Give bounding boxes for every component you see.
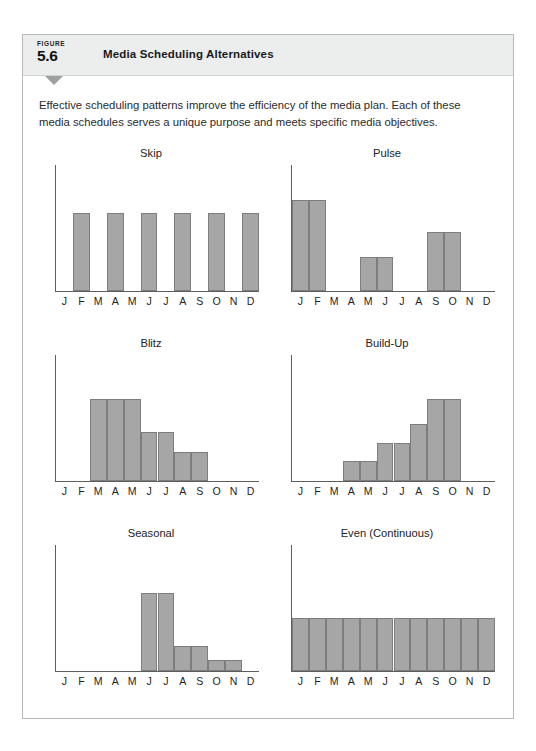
x-axis-tick-label: A [179,675,186,687]
x-axis-tick-label: M [330,675,339,687]
x-axis [55,671,259,672]
x-axis-tick-label: N [466,485,474,497]
x-axis-tick-label: S [196,675,203,687]
x-axis-tick-label: D [483,675,491,687]
bar [158,432,175,481]
x-axis-tick-label: J [298,295,303,307]
bar [377,443,394,481]
bar [377,618,394,671]
x-axis-tick-label: A [348,485,355,497]
x-axis-tick-label: J [163,485,168,497]
x-axis-tick-label: J [62,295,67,307]
chart-grid: SkipJFMAMJJASONDPulseJFMAMJJASONDBlitzJF… [33,147,505,707]
bar [444,399,461,481]
x-axis-tick-label: A [348,295,355,307]
bar [191,646,208,671]
x-axis-tick-label: J [399,675,404,687]
bar [410,618,427,671]
bar [377,257,394,291]
plot-area [55,165,259,291]
x-axis-tick-label: S [432,485,439,497]
x-axis-tick-label: J [146,295,151,307]
bar [427,399,444,481]
bar [292,618,309,671]
x-axis-tick-label: J [62,675,67,687]
x-axis-labels: JFMAMJJASOND [291,295,495,311]
bar [90,399,107,481]
bar [107,399,124,481]
plot-area [291,545,495,671]
chart-even-continuous: Even (Continuous)JFMAMJJASOND [269,527,505,713]
x-axis-tick-label: J [298,675,303,687]
bar-series [292,355,495,481]
x-axis-tick-label: J [399,295,404,307]
bar [410,424,427,481]
bar [292,200,309,291]
x-axis [291,291,495,292]
x-axis-tick-label: J [146,485,151,497]
x-axis-tick-label: S [196,485,203,497]
bar [343,618,360,671]
x-axis-tick-label: J [382,675,387,687]
x-axis-tick-label: D [247,485,255,497]
x-axis-tick-label: N [466,295,474,307]
x-axis-tick-label: D [483,295,491,307]
x-axis-tick-label: A [415,485,422,497]
x-axis-tick-label: F [78,675,84,687]
x-axis-tick-label: J [399,485,404,497]
bar [360,461,377,481]
x-axis-tick-label: N [466,675,474,687]
x-axis-tick-label: F [78,485,84,497]
bar [208,213,225,291]
x-axis [55,481,259,482]
x-axis-tick-label: J [146,675,151,687]
bar [225,660,242,671]
x-axis-tick-label: A [179,295,186,307]
x-axis-tick-label: A [415,675,422,687]
x-axis-tick-label: D [247,675,255,687]
chart-build-up: Build-UpJFMAMJJASOND [269,337,505,523]
chart-pulse: PulseJFMAMJJASOND [269,147,505,333]
x-axis [291,481,495,482]
bar [394,443,411,481]
bar-series [56,165,259,291]
figure-number-block: FIGURE 5.6 [37,39,79,64]
plot-area [291,165,495,291]
x-axis-tick-label: A [112,675,119,687]
figure-header: FIGURE 5.6 Media Scheduling Alternatives [23,35,513,76]
x-axis-tick-label: O [449,295,457,307]
bar-series [292,165,495,291]
bar [141,432,158,481]
x-axis-tick-label: A [415,295,422,307]
x-axis-tick-label: F [78,295,84,307]
x-axis-tick-label: D [247,295,255,307]
bar [158,593,175,671]
x-axis-tick-label: M [364,675,373,687]
bar [444,618,461,671]
x-axis-tick-label: N [230,295,238,307]
chart-title: Even (Continuous) [269,527,505,539]
figure-tab-triangle-icon [45,76,63,85]
chart-skip: SkipJFMAMJJASOND [33,147,269,333]
x-axis-tick-label: O [449,675,457,687]
x-axis-tick-label: M [128,295,137,307]
bar [427,618,444,671]
x-axis [291,671,495,672]
bar [242,213,259,291]
x-axis-tick-label: M [94,295,103,307]
bar [191,452,208,481]
bar [73,213,90,291]
plot-area [55,355,259,481]
chart-title: Build-Up [269,337,505,349]
bar [360,257,377,291]
bar-series [56,355,259,481]
x-axis-tick-label: S [196,295,203,307]
bar [360,618,377,671]
bar [461,618,478,671]
x-axis-tick-label: M [364,295,373,307]
x-axis-labels: JFMAMJJASOND [291,485,495,501]
chart-seasonal: SeasonalJFMAMJJASOND [33,527,269,713]
x-axis-tick-label: O [213,675,221,687]
figure-intro-text: Effective scheduling patterns improve th… [39,97,494,130]
x-axis-tick-label: A [112,295,119,307]
